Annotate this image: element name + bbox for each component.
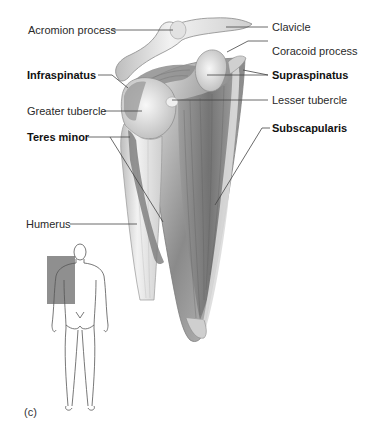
humerus	[121, 124, 164, 300]
body-locator	[47, 244, 108, 410]
label-humerus: Humerus	[26, 218, 71, 231]
shaded-region	[47, 256, 75, 304]
label-lesser-tubercle: Lesser tubercle	[272, 94, 347, 107]
label-greater-tubercle: Greater tubercle	[27, 105, 106, 118]
label-supraspinatus: Supraspinatus	[272, 69, 348, 82]
label-subscapularis: Subscapularis	[272, 122, 347, 135]
label-acromion-process: Acromion process	[28, 24, 116, 37]
label-clavicle: Clavicle	[272, 21, 311, 34]
anatomy-figure: Acromion process Infraspinatus Greater t…	[0, 0, 370, 440]
label-infraspinatus: Infraspinatus	[27, 69, 96, 82]
label-coracoid-process: Coracoid process	[272, 45, 358, 58]
panel-label: (c)	[24, 406, 37, 418]
label-teres-minor: Teres minor	[27, 131, 89, 144]
